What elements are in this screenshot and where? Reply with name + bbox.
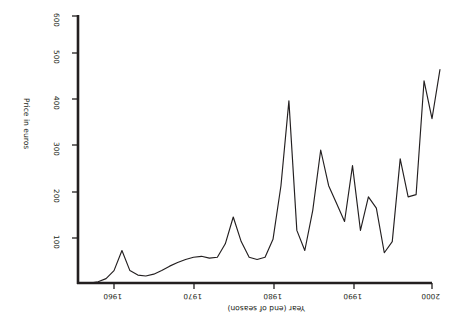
y-axis-title: Price in euros (22, 98, 31, 149)
y-tick-label-100: 100 (52, 235, 61, 249)
y-tick-label-500: 500 (52, 50, 61, 64)
y-tick-label-600: 600 (52, 13, 61, 27)
x-tick-label-1990: 1990 (343, 292, 362, 301)
x-tick-label-2000: 2000 (421, 292, 440, 301)
x-axis-title: Year (end of season) (227, 304, 305, 313)
data-line-price (90, 70, 440, 284)
y-tick-label-400: 400 (52, 96, 61, 110)
chart-plot-area (0, 0, 458, 317)
x-tick-label-1960: 1960 (103, 292, 122, 301)
x-tick-label-1970: 1970 (183, 292, 202, 301)
y-tick-label-200: 200 (52, 189, 61, 203)
chart-canvas: 2000 1990 1980 1970 1960 Year (end of se… (0, 0, 458, 317)
x-tick-label-1980: 1980 (263, 292, 282, 301)
y-tick-label-300: 300 (52, 142, 61, 156)
